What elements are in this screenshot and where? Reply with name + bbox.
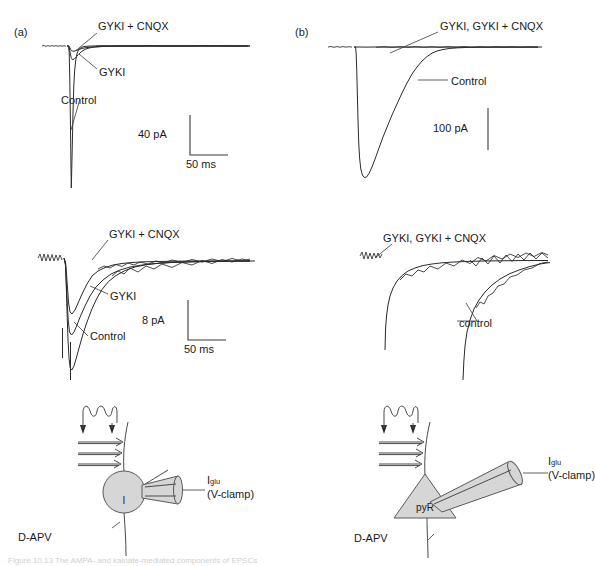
diagram-b: pyR D-APV	[280, 380, 561, 566]
pipette-clamp-label-a: (V-clamp)	[207, 488, 254, 500]
trace-gyki-cnqx-a-mid	[64, 258, 250, 314]
diagram-a: I Iglu (V-clamp) D-APV	[0, 380, 280, 566]
leader-dapv-a	[112, 522, 120, 528]
soma-interneuron	[103, 471, 145, 513]
dendrite-a	[124, 422, 128, 472]
axon-b	[427, 518, 428, 558]
scalebar-a-mid	[188, 300, 226, 340]
soma-label-a: I	[123, 495, 126, 506]
afferent-axons-b	[379, 438, 424, 468]
scalebar-a-top-horizontal-label: 50 ms	[186, 158, 216, 170]
trace-control-b-top	[354, 47, 538, 178]
scalebar-b-top-vertical-label: 100 pA	[433, 122, 468, 134]
glutamate-pipette-a	[142, 476, 183, 504]
panel-b-top-traces	[280, 0, 561, 190]
apical-dendrite-b	[425, 422, 430, 476]
trace-gyki-a-top	[67, 46, 250, 60]
figure-caption: Figure 10.13 The AMPA- and kainate-media…	[8, 556, 553, 565]
iglu-sub-b: glu	[551, 458, 561, 467]
stimulus-coil-icon-a	[80, 406, 117, 434]
diagram-b-svg: pyR	[280, 380, 561, 566]
leader-gyki-a-top	[79, 54, 97, 69]
afferent-axons-a	[78, 438, 123, 468]
trace-baseline-b-top	[328, 47, 352, 48]
panel-a-mid: GYKI + CNQX GYKI Control 8 pA 50	[0, 190, 280, 380]
pipette-label-a: Iglu	[207, 474, 220, 488]
panel-a-top: (a) GYKI + CNQX GYKI Control 40 pA 50 ms	[0, 0, 280, 190]
iglu-sub-a: glu	[210, 477, 220, 486]
scalebar-a-top-vertical-label: 40 pA	[138, 128, 167, 140]
trace-baseline-a-top	[42, 45, 66, 46]
trace-control-a-top-rise	[71, 46, 248, 188]
stimulus-coil-icon-b	[381, 406, 418, 434]
panel-b-top: (b) GYKI, GYKI + CNQX Control 100 pA	[280, 0, 561, 190]
leader-gyki-both-b-mid	[375, 244, 392, 258]
scalebar-a-mid-vertical-label: 8 pA	[142, 314, 165, 326]
trace-noise-ctrl-b-mid	[476, 262, 548, 308]
trace-gyki-cnqx-a-top	[67, 46, 250, 51]
glutamate-pipette-b	[430, 459, 525, 512]
pipette-clamp-label-b: (V-clamp)	[548, 469, 595, 481]
trace-noise-tail-a-top	[96, 46, 248, 47]
panel-b-mid: GYKI, GYKI + CNQX control	[280, 190, 561, 380]
drug-label-a: D-APV	[18, 531, 52, 543]
scalebar-a-mid-horizontal-label: 50 ms	[184, 343, 214, 355]
panel-b-mid-traces	[280, 190, 561, 380]
leader-gyki-cnqx-a-mid	[92, 240, 108, 260]
panel-a-mid-traces	[0, 190, 280, 380]
drug-label-b: D-APV	[354, 532, 388, 544]
axon-a	[124, 512, 126, 556]
leader-control-a-top	[71, 99, 80, 130]
pipette-label-b: Iglu	[548, 455, 561, 469]
panel-a-top-traces	[0, 0, 280, 190]
trace-baseline-a-mid	[38, 254, 62, 261]
leader-dapv-b	[428, 534, 434, 540]
trace-control-a-top	[67, 46, 71, 188]
trace-baseline-b-mid	[360, 252, 382, 259]
scalebar-a-top	[190, 115, 228, 155]
leader-gyki-both-b-top	[390, 32, 438, 53]
